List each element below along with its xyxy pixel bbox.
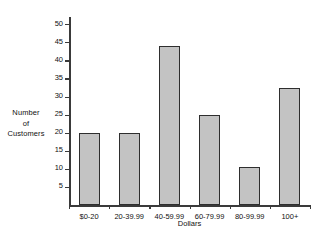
- y-axis-tick-label: 40: [55, 55, 63, 65]
- plot-area: 5101520253035404550 $0-2020-39.9940-59.9…: [69, 17, 310, 205]
- y-axis-tick-label: 15: [55, 145, 63, 155]
- x-axis-title: Dollars: [69, 219, 310, 229]
- x-axis-tick: [109, 205, 110, 209]
- bar: [199, 115, 220, 205]
- y-axis-tick: 35: [65, 78, 69, 79]
- y-axis-tick-label: 10: [55, 163, 63, 173]
- x-axis-tick: [270, 205, 271, 209]
- y-axis-title-line-1: Number: [2, 108, 50, 119]
- y-axis-tick-label: 5: [59, 181, 63, 191]
- bar: [159, 46, 180, 205]
- y-axis-line: [69, 17, 71, 205]
- bar: [239, 167, 260, 205]
- y-axis-tick: 10: [65, 169, 69, 170]
- y-axis-tick: 30: [65, 97, 69, 98]
- y-axis-tick-label: 20: [55, 127, 63, 137]
- y-axis-tick: 45: [65, 42, 69, 43]
- y-axis-tick: 15: [65, 151, 69, 152]
- y-axis-tick: 5: [65, 187, 69, 188]
- x-axis-tick: [69, 205, 70, 209]
- bar: [79, 133, 100, 205]
- y-axis-tick: 50: [65, 24, 69, 25]
- y-axis-tick: 40: [65, 60, 69, 61]
- y-axis-title-line-2: of: [2, 119, 50, 130]
- y-axis-tick-label: 45: [55, 37, 63, 47]
- y-axis-tick-label: 25: [55, 109, 63, 119]
- x-axis-tick: [310, 205, 311, 209]
- y-axis-tick-label: 30: [55, 91, 63, 101]
- x-axis-tick: [190, 205, 191, 209]
- y-axis-tick-label: 50: [55, 19, 63, 29]
- bar: [279, 88, 300, 206]
- bar: [119, 133, 140, 205]
- y-axis-title: Number of Customers: [2, 108, 50, 140]
- x-axis-tick: [230, 205, 231, 209]
- y-axis-tick-label: 35: [55, 73, 63, 83]
- y-axis-tick: 20: [65, 133, 69, 134]
- y-axis-title-line-3: Customers: [2, 129, 50, 140]
- bar-chart: Number of Customers 5101520253035404550 …: [0, 0, 315, 243]
- x-axis-tick: [149, 205, 150, 209]
- y-axis-tick: 25: [65, 115, 69, 116]
